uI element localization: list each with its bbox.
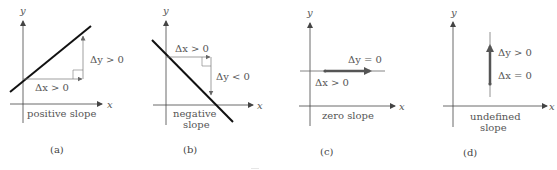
panel-b-negative-slope: y x Δx > 0 Δy < 0 negative slope (b) — [152, 5, 263, 155]
slope-label-line-2: slope — [183, 119, 210, 130]
y-axis-label: y — [19, 5, 26, 16]
delta-x-label: Δx = 0 — [498, 70, 532, 81]
delta-y-label: Δy = 0 — [348, 54, 382, 65]
delta-x-label: Δx > 0 — [175, 43, 209, 54]
panel-caption: (b) — [183, 144, 197, 155]
delta-y-label: Δy < 0 — [216, 71, 250, 82]
right-angle-marker — [202, 57, 211, 66]
panel-d-undefined-slope: y x Δy > 0 Δx = 0 undefined slope (d) — [443, 7, 555, 158]
x-axis-label: x — [549, 101, 555, 112]
slope-label: positive slope — [27, 108, 96, 119]
right-angle-marker — [73, 70, 83, 79]
y-axis-label: y — [162, 5, 169, 16]
panel-c-zero-slope: y x Δy = 0 Δx > 0 zero slope (c) — [299, 7, 405, 157]
panel-caption: (c) — [320, 146, 334, 157]
x-axis-label: x — [257, 100, 263, 111]
slope-label-line-1: negative — [173, 108, 217, 119]
x-axis-label: x — [107, 99, 113, 110]
slope-label-line-2: slope — [480, 122, 507, 133]
delta-y-label: Δy > 0 — [498, 47, 532, 58]
slope-label: zero slope — [322, 110, 374, 121]
delta-x-label: Δx > 0 — [315, 77, 349, 88]
delta-x-label: Δx > 0 — [35, 82, 69, 93]
y-axis-label: y — [306, 7, 313, 18]
delta-y-label: Δy > 0 — [90, 54, 124, 65]
panel-caption: (d) — [463, 147, 477, 158]
slope-label-line-1: undefined — [470, 111, 521, 122]
x-axis-label: x — [399, 101, 405, 112]
panel-caption: (a) — [50, 144, 64, 155]
slope-figure: y x Δx > 0 Δy > 0 positive slope (a) y x… — [0, 0, 557, 170]
y-axis-label: y — [450, 7, 457, 18]
panel-a-positive-slope: y x Δx > 0 Δy > 0 positive slope (a) — [10, 5, 124, 155]
faint-mark — [251, 168, 259, 169]
